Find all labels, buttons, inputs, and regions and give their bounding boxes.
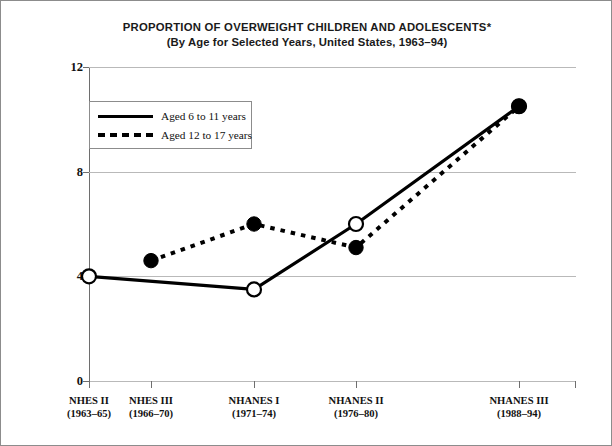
figure-frame: PROPORTION OF OVERWEIGHT CHILDREN AND AD… xyxy=(0,0,612,446)
data-point-1-2 xyxy=(247,217,261,231)
data-point-1-1 xyxy=(144,253,158,267)
data-point-1-4 xyxy=(512,99,526,113)
data-point-0-0 xyxy=(82,269,96,283)
data-point-0-2 xyxy=(247,282,261,296)
data-point-0-3 xyxy=(349,217,363,231)
series-layer xyxy=(1,1,612,446)
data-point-1-3 xyxy=(349,240,363,254)
